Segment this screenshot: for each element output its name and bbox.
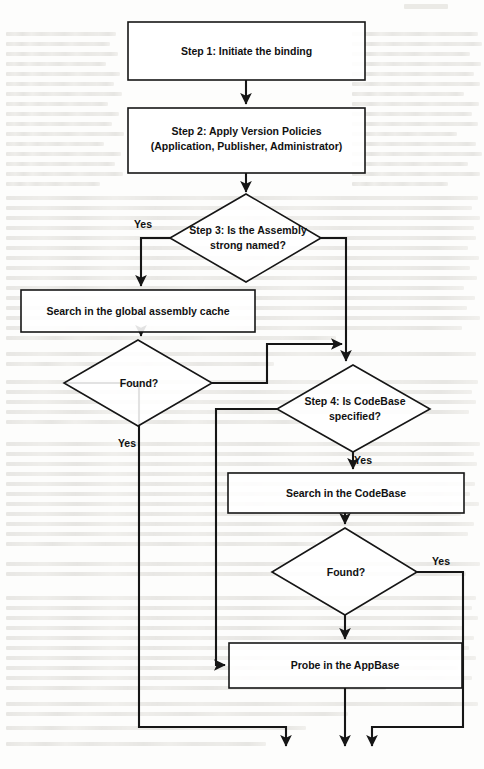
node-appbase[interactable]: Probe in the AppBase xyxy=(229,643,462,688)
node-codebase[interactable]: Search in the CodeBase xyxy=(228,473,464,513)
flowchart: Step 1: Initiate the binding Step 2: App… xyxy=(0,0,484,769)
node-gac-label: Search in the global assembly cache xyxy=(46,305,229,317)
node-found1-label: Found? xyxy=(120,377,158,389)
node-step3-label-line1: Step 3: Is the Assembly xyxy=(189,224,307,236)
node-gac[interactable]: Search in the global assembly cache xyxy=(21,290,255,332)
node-step3[interactable]: Step 3: Is the Assembly strong named? xyxy=(170,194,321,282)
scanned-page: Step 1: Initiate the binding Step 2: App… xyxy=(0,0,484,769)
edge-label-yes-found2: Yes xyxy=(432,555,450,567)
edge-label-yes-found1: Yes xyxy=(118,437,136,449)
edge-found1-step4 xyxy=(212,344,342,383)
node-found2[interactable]: Found? xyxy=(272,528,417,615)
node-found1[interactable]: Found? xyxy=(64,340,212,426)
node-step2-label-line2: (Application, Publisher, Administrator) xyxy=(151,140,343,152)
edge-found1-exit-yes xyxy=(64,383,286,746)
node-step2-label-line1: Step 2: Apply Version Policies xyxy=(171,125,321,137)
edge-step3-step4 xyxy=(321,238,346,361)
node-step4-diamond xyxy=(277,365,430,452)
edge-step4-appbase xyxy=(216,409,277,665)
edge-step3-gac-yes xyxy=(141,238,170,286)
node-step4[interactable]: Step 4: Is CodeBase specified? xyxy=(277,365,430,452)
node-step4-label-line2: specified? xyxy=(329,410,381,422)
node-codebase-label: Search in the CodeBase xyxy=(286,487,406,499)
node-found2-label: Found? xyxy=(327,566,365,578)
node-step4-label-line1: Step 4: Is CodeBase xyxy=(305,395,406,407)
node-appbase-label: Probe in the AppBase xyxy=(291,659,400,671)
node-step1-label: Step 1: Initiate the binding xyxy=(181,45,312,57)
edge-label-yes-step3: Yes xyxy=(134,218,152,230)
node-step2[interactable]: Step 2: Apply Version Policies (Applicat… xyxy=(128,108,365,173)
node-step3-label-line2: strong named? xyxy=(210,239,286,251)
node-step1[interactable]: Step 1: Initiate the binding xyxy=(128,22,365,80)
edge-label-yes-step4: Yes xyxy=(354,454,372,466)
